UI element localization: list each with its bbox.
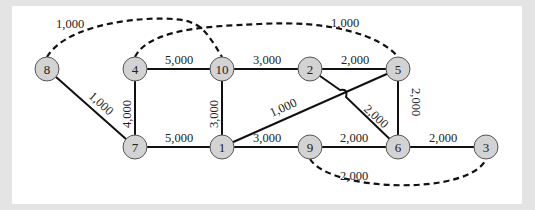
node-8: 8 — [35, 57, 59, 81]
node-4: 4 — [123, 57, 147, 81]
node-6: 6 — [386, 135, 410, 159]
svg-text:8: 8 — [44, 62, 51, 77]
node-3: 3 — [474, 135, 498, 159]
node-9: 9 — [298, 135, 322, 159]
edge-label-8-10: 1,000 — [56, 17, 84, 31]
edge-label-4-10: 5,000 — [165, 53, 193, 67]
svg-text:7: 7 — [132, 140, 139, 155]
edge-label-10-2: 3,000 — [253, 53, 281, 67]
network-graph: 1,000 1,000 2,000 5,000 3,000 2,000 1,00… — [0, 0, 535, 210]
node-2: 2 — [298, 57, 322, 81]
svg-text:3: 3 — [483, 140, 490, 155]
svg-text:6: 6 — [395, 140, 402, 155]
edge-label-6-3: 2,000 — [429, 131, 457, 145]
node-5: 5 — [386, 57, 410, 81]
svg-text:2: 2 — [307, 62, 314, 77]
edge-label-2-5: 2,000 — [341, 53, 369, 67]
edge-label-8-7: 1,000 — [86, 89, 116, 118]
edge-label-1-5: 1,000 — [268, 96, 299, 120]
node-7: 7 — [123, 135, 147, 159]
svg-text:10: 10 — [216, 62, 229, 77]
edge-label-9-3: 2,000 — [340, 169, 368, 183]
edge-label-5-6: 2,000 — [409, 88, 423, 116]
node-1: 1 — [210, 135, 234, 159]
edge-label-10-1: 3,000 — [207, 100, 221, 128]
node-10: 10 — [210, 57, 234, 81]
svg-text:9: 9 — [307, 140, 314, 155]
svg-text:5: 5 — [395, 62, 402, 77]
dashed-edge-9-3 — [310, 159, 486, 185]
edge-label-4-7: 4,000 — [120, 100, 134, 128]
edge-label-9-6: 2,000 — [340, 131, 368, 145]
edge-label-1-9: 3,000 — [253, 131, 281, 145]
svg-text:1: 1 — [219, 140, 226, 155]
edge-label-4-5: 1,000 — [331, 16, 359, 30]
svg-text:4: 4 — [132, 62, 139, 77]
edge-label-7-1: 5,000 — [165, 131, 193, 145]
